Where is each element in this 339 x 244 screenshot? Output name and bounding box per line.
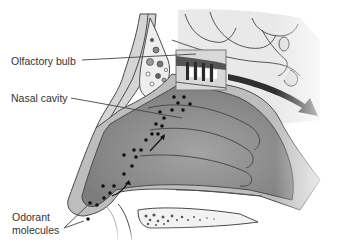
- olfactory-bulb-label: Olfactory bulb: [11, 55, 76, 68]
- olfactory-diagram: [0, 0, 339, 244]
- odorant-molecules-label: Odorant molecules: [12, 211, 59, 237]
- odorant-label-line2: molecules: [12, 224, 59, 237]
- odorant-label-line1: Odorant: [12, 211, 59, 224]
- olfactory-bulb-inset: [176, 50, 226, 90]
- nasal-cavity-label: Nasal cavity: [11, 92, 68, 105]
